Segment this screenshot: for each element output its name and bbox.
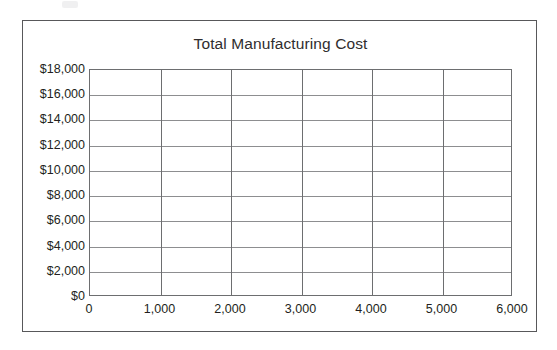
y-axis-tick-labels: $0$2,000$4,000$6,000$8,000$10,000$12,000…: [23, 69, 85, 296]
x-axis-tick-label: 4,000: [355, 302, 386, 316]
scan-artifact: [62, 1, 78, 8]
chart-page: Total Manufacturing Cost $0$2,000$4,000$…: [0, 0, 557, 350]
gridlines: [90, 70, 511, 295]
gridline-horizontal: [90, 120, 511, 121]
gridline-vertical: [372, 70, 373, 295]
gridline-horizontal: [90, 146, 511, 147]
y-axis-tick-label: $2,000: [23, 265, 85, 278]
y-axis-tick-label: $4,000: [23, 239, 85, 252]
gridline-horizontal: [90, 196, 511, 197]
y-axis-tick-label: $6,000: [23, 214, 85, 227]
figure-frame: Total Manufacturing Cost $0$2,000$4,000$…: [22, 20, 537, 332]
x-axis-tick-label: 2,000: [214, 302, 245, 316]
y-axis-tick-label: $14,000: [23, 113, 85, 126]
y-axis-tick-label: $10,000: [23, 164, 85, 177]
x-axis-tick-label: 3,000: [285, 302, 316, 316]
x-axis-tick-label: 6,000: [496, 302, 527, 316]
y-axis-tick-label: $16,000: [23, 88, 85, 101]
gridline-vertical: [302, 70, 303, 295]
x-axis-tick-label: 0: [86, 302, 93, 316]
y-axis-tick-label: $0: [23, 290, 85, 303]
y-axis-tick-label: $18,000: [23, 63, 85, 76]
gridline-horizontal: [90, 171, 511, 172]
gridline-vertical: [443, 70, 444, 295]
y-axis-tick-label: $12,000: [23, 138, 85, 151]
x-axis-tick-label: 5,000: [426, 302, 457, 316]
gridline-horizontal: [90, 247, 511, 248]
gridline-vertical: [161, 70, 162, 295]
gridline-horizontal: [90, 95, 511, 96]
gridline-vertical: [231, 70, 232, 295]
plot-area: [89, 69, 512, 296]
x-axis-tick-label: 1,000: [144, 302, 175, 316]
y-axis-tick-label: $8,000: [23, 189, 85, 202]
chart-title: Total Manufacturing Cost: [23, 35, 538, 53]
x-axis-tick-labels: 01,0002,0003,0004,0005,0006,000: [89, 302, 512, 322]
gridline-horizontal: [90, 272, 511, 273]
gridline-horizontal: [90, 221, 511, 222]
